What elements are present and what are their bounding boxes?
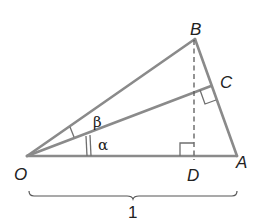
geometry-diagram: B C O D A β α 1 <box>0 0 255 222</box>
label-point-C: C <box>220 73 233 92</box>
label-point-B: B <box>190 20 201 39</box>
angle-mark-alpha-1 <box>86 136 87 156</box>
label-point-O: O <box>14 165 27 184</box>
segment-OC <box>27 86 211 156</box>
label-point-A: A <box>235 153 247 172</box>
label-angle-alpha: α <box>98 136 108 154</box>
angle-mark-alpha-2 <box>90 135 91 156</box>
base-brace <box>29 191 237 199</box>
right-angle-marker-D <box>180 143 194 156</box>
segment-BA <box>195 39 237 156</box>
segment-OB <box>27 39 195 156</box>
label-point-D: D <box>187 166 199 185</box>
label-base-length: 1 <box>128 203 137 222</box>
angle-mark-beta <box>70 127 74 137</box>
label-angle-beta: β <box>93 113 102 131</box>
